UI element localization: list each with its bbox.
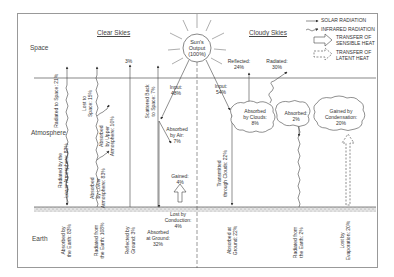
- label-three-pct: 3%: [125, 58, 132, 64]
- earth-surface: [34, 207, 376, 212]
- latent-heat-legend-icon: [314, 48, 332, 60]
- zone-earth: Earth: [32, 235, 48, 242]
- sensible-heat-arrow: [174, 184, 186, 202]
- label-absorbed-upper: Absorbedby UpperAtmosphere: 10%: [99, 114, 116, 158]
- legend-latent: TRANSFER OFLATENT HEAT: [336, 50, 371, 61]
- label-absorbed-lower: Absorbedby LowerAtmosphere: 83%: [90, 166, 107, 210]
- label-clear-input: Input:48%: [168, 84, 184, 96]
- label-radiated-lower: Radiated by theLower Atmosphere: 83%: [58, 141, 69, 201]
- label-radiated-to-space: Radiated to Space: 21%: [54, 78, 60, 128]
- zone-atmosphere: Atmosphere: [31, 129, 66, 136]
- label-cloudy-absorbed-at-ground: Absorbed atGround: 22%: [227, 224, 238, 258]
- label-absorbed-at-ground: Absorbedat Ground:32%: [144, 229, 172, 247]
- label-lost-to-space: Lost toSpace: 15%: [82, 89, 93, 119]
- label-transmitted: Transmittedthrough Clouds: 22%: [217, 150, 228, 198]
- infrared-radiation-legend-icon: [306, 29, 318, 31]
- label-cloud-absorbed: Absorbed:2%: [283, 110, 309, 122]
- label-lost-by-evaporation: Lost byEvaporation: 20%: [340, 219, 351, 263]
- label-gained: Gained:4%: [170, 173, 190, 185]
- latent-heat-arrow: [342, 134, 354, 205]
- label-absorbed-by-air: Absorbedby Air:7%: [165, 126, 189, 144]
- legend-sensible: TRANSFER OFSENSIBLE HEAT: [336, 35, 375, 46]
- label-absorbed-by-earth: Absorbed bythe Earth: 83%: [61, 223, 72, 259]
- legend-solar: SOLAR RADIATION: [321, 18, 366, 24]
- label-radiated: Radiated:30%: [264, 58, 290, 70]
- label-gained-by-condensation: Gained byCondensation:20%: [322, 108, 360, 126]
- label-radiated-from-earth: Radiated fromthe Earth: 108%: [94, 221, 105, 261]
- label-reflected-by-ground: Reflected byGround: 3%: [125, 225, 136, 257]
- label-absorbed-by-clouds: Absorbedby Clouds:8%: [238, 108, 272, 126]
- sensible-heat-legend-icon: [314, 34, 332, 46]
- label-cloudy-input: Input:54%: [212, 83, 230, 95]
- zone-space: Space: [30, 44, 48, 51]
- label-lost-by-conduction: Lost byConduction:4%: [163, 211, 193, 229]
- sun-label: Sun'sOutput(100%): [183, 39, 211, 57]
- clear-skies-header: Clear Skies: [97, 29, 130, 36]
- label-reflected: Reflected:24%: [226, 58, 252, 70]
- label-cloudy-radiated-from-earth: Radiated fromthe Earth: 2%: [293, 224, 304, 262]
- label-scattered-back: Scattered Backto Space: 7%: [145, 83, 156, 121]
- cloudy-skies-header: Cloudy Skies: [249, 29, 287, 36]
- legend-infrared: INFRARED RADIATION: [321, 27, 375, 33]
